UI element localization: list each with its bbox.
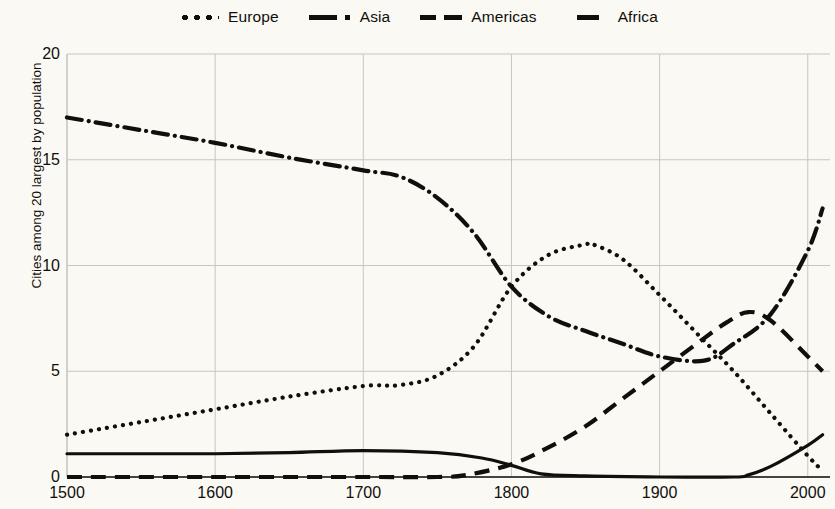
series-group bbox=[67, 117, 823, 477]
chart-figure: EuropeAsiaAmericasAfrica Cities among 20… bbox=[0, 0, 835, 509]
series-line-asia bbox=[67, 117, 823, 361]
gridlines bbox=[67, 54, 830, 477]
plot-area bbox=[0, 0, 835, 509]
series-line-europe bbox=[67, 243, 823, 471]
series-line-africa bbox=[67, 435, 823, 478]
